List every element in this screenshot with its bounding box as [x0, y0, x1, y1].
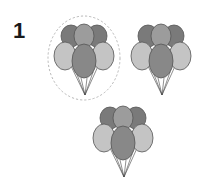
balloon-option-3[interactable] — [93, 106, 153, 177]
balloon-options — [0, 0, 199, 177]
balloon-bunch-icon — [131, 24, 191, 95]
balloon-option-2[interactable] — [131, 24, 191, 95]
balloon-bunch-icon — [93, 106, 153, 177]
balloon-bunch-icon — [54, 24, 114, 95]
balloon-option-1[interactable] — [48, 16, 120, 100]
